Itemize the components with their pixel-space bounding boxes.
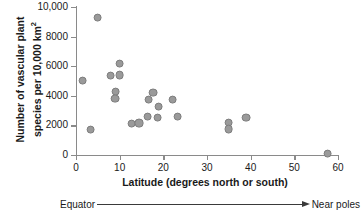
x-axis-tick-mark xyxy=(207,155,208,160)
data-point xyxy=(116,71,124,79)
data-point xyxy=(225,125,233,133)
data-point xyxy=(115,59,123,67)
y-axis-tick-label: 4000 xyxy=(46,90,68,101)
data-point xyxy=(144,112,152,120)
x-axis-title: Latitude (degrees north or south) xyxy=(60,176,350,188)
y-axis-title-line2-prefix: species per 10,000 km xyxy=(31,26,43,137)
y-axis-title-line2: species per 10,000 km2 xyxy=(27,2,44,157)
direction-annotation: Equator Near poles xyxy=(60,196,360,212)
y-axis-title: Number of vascular plant species per 10,… xyxy=(0,0,44,160)
annotation-left-label: Equator xyxy=(60,199,95,210)
y-axis-tick-label: 8000 xyxy=(46,31,68,42)
x-axis-tick-mark xyxy=(120,155,121,160)
arrow-head xyxy=(302,201,310,207)
arrow-shaft xyxy=(97,204,303,205)
x-axis-tick-mark xyxy=(338,155,339,160)
data-point xyxy=(135,119,143,127)
data-point xyxy=(149,89,157,97)
data-point xyxy=(107,72,115,80)
annotation-right-label: Near poles xyxy=(312,199,360,210)
y-axis-tick-label: 10,000 xyxy=(37,1,68,12)
data-point xyxy=(174,112,182,120)
y-axis-tick-label: 6000 xyxy=(46,60,68,71)
x-axis-tick-label: 50 xyxy=(279,162,309,173)
data-point xyxy=(154,114,162,122)
plot-area xyxy=(76,7,338,155)
data-point xyxy=(324,149,332,157)
data-point xyxy=(111,95,119,103)
x-axis-tick-label: 0 xyxy=(61,162,91,173)
data-point xyxy=(169,95,177,103)
y-axis-tick-label: 2000 xyxy=(46,119,68,130)
annotation-arrow-icon xyxy=(97,199,310,209)
scatter-plot-figure: Number of vascular plant species per 10,… xyxy=(0,0,364,218)
data-point xyxy=(87,126,95,134)
x-axis-tick-mark xyxy=(76,155,77,160)
data-point xyxy=(155,103,163,111)
y-axis-title-superscript: 2 xyxy=(29,22,38,26)
y-axis-title-line1: Number of vascular plant xyxy=(14,16,26,142)
y-axis-title-text: Number of vascular plant species per 10,… xyxy=(14,2,44,157)
x-axis-tick-mark xyxy=(251,155,252,160)
x-axis-tick-mark xyxy=(163,155,164,160)
data-point xyxy=(79,76,87,84)
x-axis-tick-label: 20 xyxy=(148,162,178,173)
data-point xyxy=(242,114,250,122)
x-axis-tick-label: 10 xyxy=(105,162,135,173)
x-axis-tick-label: 30 xyxy=(192,162,222,173)
y-axis-tick-label: 0 xyxy=(62,149,68,160)
x-axis-tick-label: 40 xyxy=(236,162,266,173)
x-axis-tick-label: 60 xyxy=(323,162,353,173)
x-axis-tick-mark xyxy=(294,155,295,160)
data-point xyxy=(94,13,102,21)
